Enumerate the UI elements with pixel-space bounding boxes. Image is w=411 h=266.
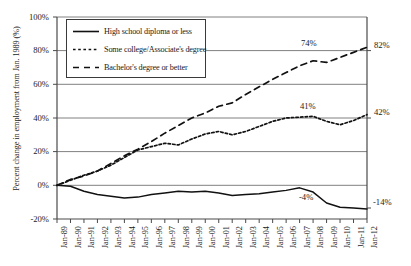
chart-legend: High school diploma or less Some college…	[66, 19, 206, 78]
legend-swatch-dashed-icon	[72, 63, 100, 72]
y-tick-label: 0%	[15, 180, 49, 190]
legend-label-high-school: High school diploma or less	[104, 27, 192, 36]
legend-item-bachelors: Bachelor's degree or better	[72, 59, 188, 75]
legend-label-bachelors: Bachelor's degree or better	[104, 63, 188, 72]
x-tick-label: Jan-04	[262, 226, 271, 256]
x-tick-label: Jan-09	[330, 226, 339, 256]
x-tick-label: Jan-01	[222, 226, 231, 256]
x-tick-label: Jan-12	[370, 226, 379, 256]
end-label-42: 42%	[374, 107, 390, 117]
chart-container: Percent change in employment from Jan. 1…	[0, 0, 411, 266]
x-tick-label: Jan-98	[182, 226, 191, 256]
legend-item-high-school: High school diploma or less	[72, 23, 192, 39]
y-tick-label: 60%	[15, 79, 49, 89]
x-tick-label: Jan-08	[316, 226, 325, 256]
x-tick-label: Jan-07	[303, 226, 312, 256]
x-tick-label: Jan-97	[168, 226, 177, 256]
x-tick-label: Jan-95	[141, 226, 150, 256]
legend-label-some-college: Some college/Associate's degree	[104, 45, 206, 54]
point-label-74: 74%	[301, 38, 317, 48]
x-tick-label: Jan-02	[235, 226, 244, 256]
x-tick-label: Jan-91	[87, 226, 96, 256]
x-tick-label: Jan-03	[249, 226, 258, 256]
x-tick-label: Jan-11	[357, 226, 366, 256]
series-line-solid	[57, 185, 367, 209]
y-tick-label: 20%	[15, 146, 49, 156]
y-tick-label: -20%	[15, 214, 49, 224]
x-tick-label: Jan-00	[208, 226, 217, 256]
x-tick-label: Jan-10	[343, 226, 352, 256]
end-label-82: 82%	[374, 40, 390, 50]
y-tick-label: 40%	[15, 113, 49, 123]
x-axis-ticks	[57, 219, 367, 223]
series-line-dotted	[57, 115, 367, 186]
x-tick-label: Jan-96	[155, 226, 164, 256]
x-tick-label: Jan-99	[195, 226, 204, 256]
y-axis-title: Percent change in employment from Jan. 1…	[12, 9, 21, 209]
legend-item-some-college: Some college/Associate's degree	[72, 41, 206, 57]
x-tick-label: Jan-06	[289, 226, 298, 256]
y-tick-label: 100%	[15, 12, 49, 22]
end-label-minus-14: -14%	[373, 197, 392, 207]
x-tick-label: Jan-05	[276, 226, 285, 256]
point-label-minus-4: -4%	[299, 192, 313, 202]
x-tick-label: Jan-94	[128, 226, 137, 256]
legend-swatch-dotted-icon	[72, 45, 100, 54]
legend-swatch-solid-icon	[72, 27, 100, 36]
y-tick-label: 80%	[15, 45, 49, 55]
x-tick-label: Jan-90	[74, 226, 83, 256]
x-tick-label: Jan-92	[101, 226, 110, 256]
x-tick-label: Jan-93	[114, 226, 123, 256]
point-label-41: 41%	[300, 101, 316, 111]
x-tick-label: Jan-89	[60, 226, 69, 256]
